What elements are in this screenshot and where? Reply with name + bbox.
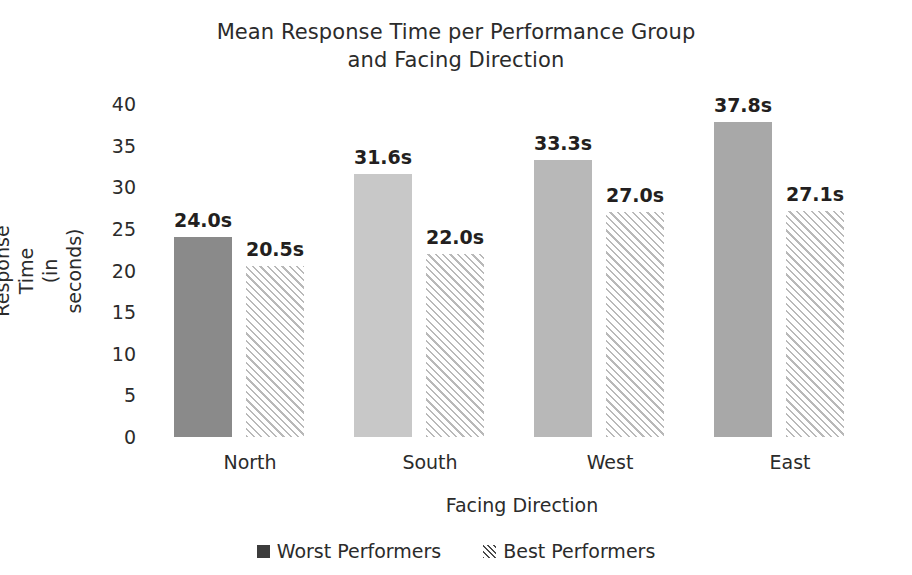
x-tick-north: North [223, 451, 276, 473]
legend-item-best-performers[interactable]: Best Performers [483, 540, 655, 562]
bar-east-best[interactable]: 27.1s [786, 211, 844, 437]
bar-value-north-best: 20.5s [246, 238, 304, 260]
y-tick-20: 20 [112, 260, 136, 282]
bar-east-worst[interactable]: 37.8s [714, 122, 772, 437]
x-tick-west: West [587, 451, 634, 473]
bar-value-north-worst: 24.0s [174, 209, 232, 231]
y-tick-15: 15 [112, 301, 136, 323]
x-tick-south: South [402, 451, 457, 473]
bar-group-west: 33.3s 27.0s West [530, 104, 690, 437]
legend-label-best-performers: Best Performers [503, 540, 655, 562]
bar-group-north: 24.0s 20.5s North [170, 104, 330, 437]
y-tick-35: 35 [112, 135, 136, 157]
y-tick-40: 40 [112, 93, 136, 115]
bar-west-worst[interactable]: 33.3s [534, 160, 592, 437]
bar-west-best[interactable]: 27.0s [606, 212, 664, 437]
legend-swatch-solid-icon [257, 545, 270, 558]
y-tick-25: 25 [112, 218, 136, 240]
bar-value-south-worst: 31.6s [354, 146, 412, 168]
legend-label-worst-performers: Worst Performers [277, 540, 441, 562]
y-axis-label: Response Time (in seconds) [0, 225, 86, 316]
y-tick-30: 30 [112, 176, 136, 198]
plot-area: 40 35 30 25 20 15 10 5 0 24.0s 20.5s Nor… [148, 104, 896, 437]
bar-value-west-worst: 33.3s [534, 132, 592, 154]
legend-item-worst-performers[interactable]: Worst Performers [257, 540, 441, 562]
bar-value-west-best: 27.0s [606, 184, 664, 206]
y-tick-10: 10 [112, 343, 136, 365]
y-tick-0: 0 [124, 426, 136, 448]
y-tick-5: 5 [124, 384, 136, 406]
x-axis-label: Facing Direction [148, 494, 896, 516]
bar-north-worst[interactable]: 24.0s [174, 237, 232, 437]
bar-north-best[interactable]: 20.5s [246, 266, 304, 437]
chart-title: Mean Response Time per Performance Group… [0, 18, 912, 74]
bar-south-best[interactable]: 22.0s [426, 254, 484, 437]
bar-south-worst[interactable]: 31.6s [354, 174, 412, 437]
x-tick-east: East [770, 451, 811, 473]
bar-value-south-best: 22.0s [426, 226, 484, 248]
chart-legend: Worst Performers Best Performers [0, 540, 912, 562]
bar-group-east: 37.8s 27.1s East [710, 104, 870, 437]
bar-value-east-worst: 37.8s [714, 94, 772, 116]
bar-value-east-best: 27.1s [786, 183, 844, 205]
y-axis-label-container: Response Time (in seconds) [14, 104, 62, 438]
bar-group-south: 31.6s 22.0s South [350, 104, 510, 437]
legend-swatch-hatched-icon [483, 545, 496, 558]
chart-figure: Mean Response Time per Performance Group… [0, 0, 912, 575]
